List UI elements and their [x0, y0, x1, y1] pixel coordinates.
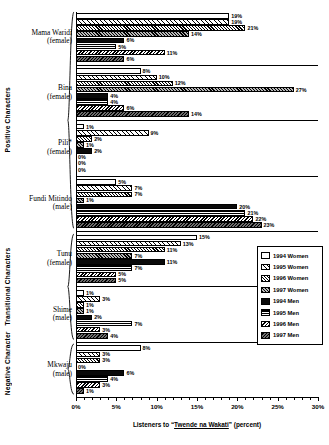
- bar[interactable]: [76, 50, 165, 56]
- bar[interactable]: [76, 370, 124, 376]
- bar-value-label: 4%: [109, 333, 118, 339]
- bar[interactable]: [76, 308, 84, 314]
- bar-row: 1%: [76, 124, 318, 130]
- x-tick-label-10: 10%: [150, 403, 162, 410]
- bar[interactable]: [76, 241, 181, 247]
- bar[interactable]: [76, 13, 229, 19]
- bar[interactable]: [76, 56, 124, 62]
- legend[interactable]: 1994 Women1995 Women1996 Women1997 Women…: [257, 246, 323, 345]
- bar[interactable]: [76, 296, 100, 302]
- bar-value-label: 4%: [109, 99, 118, 105]
- bar[interactable]: [76, 130, 149, 136]
- bar-value-label: 1%: [85, 308, 94, 314]
- bar[interactable]: [76, 204, 237, 210]
- x-tick-10: [157, 397, 158, 401]
- bar[interactable]: [76, 44, 116, 50]
- x-minor-tick: [229, 397, 230, 400]
- section-brace: [67, 11, 75, 229]
- x-tick-label-15: 15%: [191, 403, 203, 410]
- bar-value-label: 1%: [85, 124, 94, 130]
- section-brace: [67, 233, 75, 341]
- bar[interactable]: [76, 111, 189, 117]
- bar[interactable]: [76, 321, 132, 327]
- bar-row: 4%: [76, 93, 318, 99]
- bar[interactable]: [76, 19, 229, 25]
- bar[interactable]: [76, 38, 124, 44]
- bar[interactable]: [76, 93, 108, 99]
- section-title-transitional-characters: Transitional Characters: [4, 233, 11, 341]
- legend-item[interactable]: 1995 Women: [261, 261, 320, 272]
- bar[interactable]: [76, 376, 108, 382]
- legend-item[interactable]: 1996 Men: [261, 318, 320, 329]
- legend-item[interactable]: 1997 Women: [261, 284, 320, 295]
- bar[interactable]: [76, 358, 100, 364]
- bar[interactable]: [76, 302, 84, 308]
- category-gender: (male): [8, 314, 72, 323]
- group-separator: [76, 176, 318, 177]
- bar-value-label: 11%: [166, 247, 178, 253]
- bar[interactable]: [76, 352, 100, 358]
- bar[interactable]: [76, 105, 124, 111]
- x-minor-tick: [294, 397, 295, 400]
- bar-value-label: 21%: [246, 210, 258, 216]
- x-tick-label-25: 25%: [271, 403, 283, 410]
- bar[interactable]: [76, 235, 197, 241]
- group-separator: [76, 120, 318, 121]
- x-minor-tick: [213, 397, 214, 400]
- legend-item[interactable]: 1996 Women: [261, 273, 320, 284]
- bar-row: 22%: [76, 216, 318, 222]
- bar[interactable]: [76, 31, 189, 37]
- bar[interactable]: [76, 148, 92, 154]
- legend-item[interactable]: 1994 Women: [261, 250, 320, 261]
- bar[interactable]: [76, 216, 253, 222]
- bar[interactable]: [76, 278, 116, 284]
- bar-row: 21%: [76, 210, 318, 216]
- bar[interactable]: [76, 259, 165, 265]
- legend-swatch-icon: [261, 332, 270, 339]
- bar[interactable]: [76, 87, 294, 93]
- x-minor-tick: [286, 397, 287, 400]
- bar[interactable]: [76, 179, 116, 185]
- bar[interactable]: [76, 333, 108, 339]
- bar[interactable]: [76, 198, 84, 204]
- bar[interactable]: [76, 265, 132, 271]
- bar[interactable]: [76, 290, 84, 296]
- bar[interactable]: [76, 272, 116, 278]
- x-tick-label-0: 0%: [72, 403, 81, 410]
- bar-value-label: 19%: [230, 19, 242, 25]
- bar-row: 4%: [76, 376, 318, 382]
- bar[interactable]: [76, 81, 173, 87]
- bar[interactable]: [76, 382, 100, 388]
- bar[interactable]: [76, 75, 157, 81]
- bar-row: 0%: [76, 167, 318, 173]
- category-gender: (male): [8, 203, 72, 212]
- bar[interactable]: [76, 247, 165, 253]
- group-separator: [76, 231, 318, 232]
- bar[interactable]: [76, 124, 84, 130]
- bar[interactable]: [76, 253, 132, 259]
- legend-item[interactable]: 1995 Men: [261, 307, 320, 318]
- legend-swatch-icon: [261, 264, 270, 271]
- legend-item[interactable]: 1997 Men: [261, 330, 320, 341]
- bar[interactable]: [76, 327, 100, 333]
- bar[interactable]: [76, 222, 262, 228]
- bar[interactable]: [76, 315, 92, 321]
- bar[interactable]: [76, 68, 141, 74]
- bar[interactable]: [76, 185, 132, 191]
- bar[interactable]: [76, 192, 132, 198]
- bar[interactable]: [76, 136, 92, 142]
- bar-value-label: 2%: [93, 148, 102, 154]
- bar[interactable]: [76, 345, 141, 351]
- bar[interactable]: [76, 210, 245, 216]
- bar[interactable]: [76, 142, 84, 148]
- bar-value-label: 5%: [117, 179, 126, 185]
- x-minor-tick: [189, 397, 190, 400]
- bar[interactable]: [76, 388, 84, 394]
- legend-label: 1997 Women: [273, 287, 308, 293]
- bar[interactable]: [76, 99, 108, 105]
- section-title-negative-character: Negative Character: [4, 343, 11, 395]
- bar[interactable]: [76, 25, 245, 31]
- legend-item[interactable]: 1994 Men: [261, 296, 320, 307]
- bar-row: 0%: [76, 364, 318, 370]
- bar-row: 1%: [76, 388, 318, 394]
